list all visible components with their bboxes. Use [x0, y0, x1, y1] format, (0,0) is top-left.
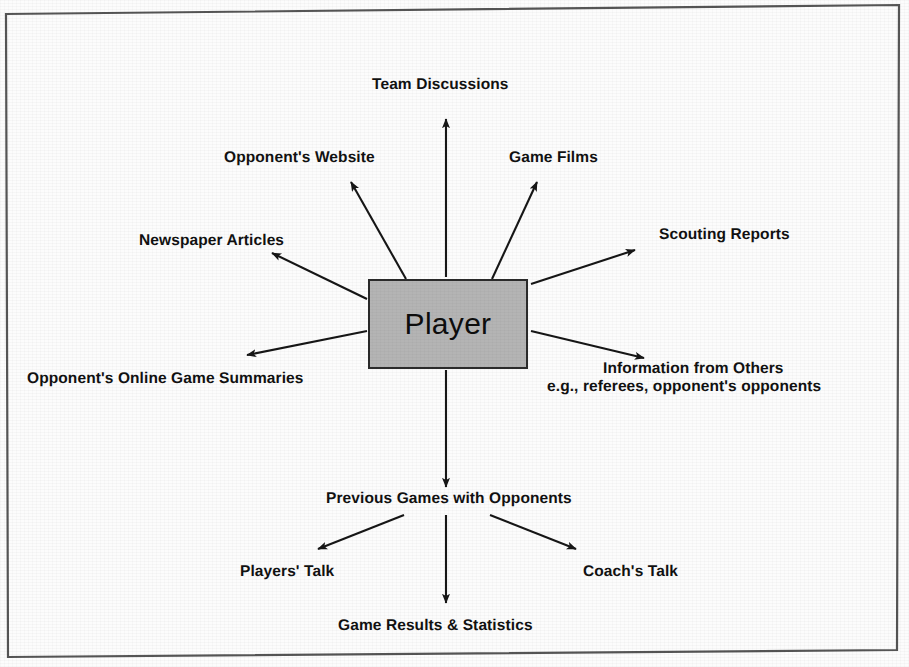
- node-previous-games-with-opponents[interactable]: Previous Games with Opponents: [326, 489, 572, 508]
- node-coachs-talk[interactable]: Coach's Talk: [583, 562, 678, 581]
- node-opponents-online-game-summaries[interactable]: Opponent's Online Game Summaries: [27, 369, 303, 388]
- node-scouting-reports[interactable]: Scouting Reports: [659, 225, 790, 244]
- edge-player-to-game-films: [492, 182, 537, 279]
- node-game-results-statistics[interactable]: Game Results & Statistics: [338, 616, 533, 635]
- node-information-from-others-line2[interactable]: e.g., referees, opponent's opponents: [547, 377, 821, 396]
- edge-previous-games-to-coachs-talk: [490, 515, 576, 549]
- edge-player-to-opponents-online-game-summaries: [247, 331, 367, 355]
- edge-player-to-newspaper-articles: [272, 253, 367, 299]
- diagram-page: Player Team Discussions Opponent's Websi…: [0, 0, 909, 667]
- node-information-from-others-line1[interactable]: Information from Others: [603, 359, 784, 378]
- player-node-label: Player: [405, 307, 492, 341]
- node-team-discussions[interactable]: Team Discussions: [372, 75, 509, 94]
- node-opponents-website[interactable]: Opponent's Website: [224, 148, 375, 167]
- node-newspaper-articles[interactable]: Newspaper Articles: [139, 231, 284, 250]
- node-game-films[interactable]: Game Films: [509, 148, 598, 167]
- node-players-talk[interactable]: Players' Talk: [240, 562, 334, 581]
- edge-player-to-scouting-reports: [531, 250, 635, 284]
- player-node[interactable]: Player: [368, 279, 528, 369]
- edge-previous-games-to-players-talk: [318, 515, 404, 549]
- edge-player-to-opponents-website: [351, 182, 406, 279]
- edge-player-to-information-from-others: [531, 331, 644, 358]
